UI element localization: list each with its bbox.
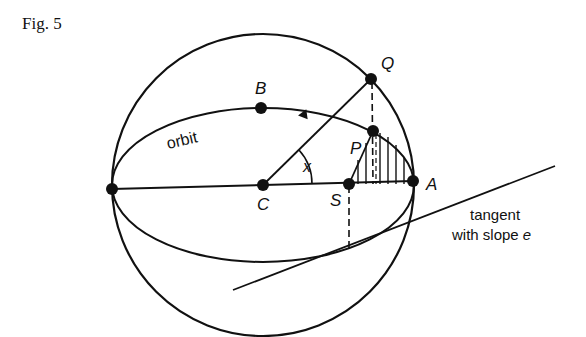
- label-slope-e: e: [523, 226, 531, 243]
- label-tangent: tangent: [470, 206, 521, 223]
- label-orbit: orbit: [165, 128, 200, 152]
- point-B: [255, 102, 267, 114]
- label-Q: Q: [381, 54, 394, 73]
- point-P: [367, 125, 379, 137]
- point-left-vertex: [106, 183, 118, 195]
- label-C: C: [257, 195, 270, 214]
- label-with-slope: with slopee: [451, 226, 531, 243]
- swept-area-hatching: [358, 133, 404, 184]
- point-Q: [365, 73, 377, 85]
- label-B: B: [255, 79, 266, 98]
- kepler-orbit-diagram: Q B P x A C S orbit tangent with slopee: [0, 0, 586, 337]
- label-S: S: [330, 191, 342, 210]
- point-C: [257, 179, 269, 191]
- label-x: x: [302, 158, 312, 175]
- point-S: [343, 178, 355, 190]
- point-A: [407, 175, 419, 187]
- label-with-slope-text: with slope: [451, 226, 519, 243]
- label-P: P: [350, 139, 362, 158]
- label-A: A: [425, 175, 437, 194]
